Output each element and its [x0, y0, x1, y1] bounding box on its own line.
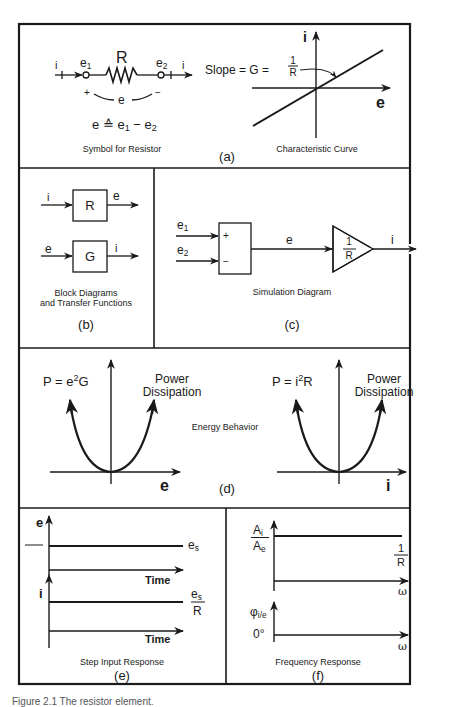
block-caption-1: Block Diagrams — [54, 289, 117, 298]
amp-ratio-bar — [251, 537, 269, 538]
slope-label: Slope = G = — [205, 64, 269, 76]
panel-a-label: (a) — [219, 150, 235, 163]
omega-axis-2: ω — [398, 641, 407, 652]
amp-ratio-num: Ai — [253, 524, 263, 537]
amp-ratio-den: Ae — [253, 540, 266, 553]
frequency-response — [274, 521, 408, 642]
curve-caption: Characteristic Curve — [276, 145, 358, 154]
energy-caption: Energy Behavior — [192, 423, 259, 432]
sum-plus: + — [223, 231, 229, 241]
gain-denominator: R — [345, 251, 352, 261]
omega-axis-1: ω — [398, 586, 407, 597]
sum-minus: − — [223, 257, 229, 267]
frequency-caption: Frequency Response — [275, 658, 361, 667]
sim-output: i — [391, 234, 394, 246]
block2-input: e — [45, 243, 52, 255]
node2-label: e2 — [156, 57, 167, 70]
simulation-caption: Simulation Diagram — [253, 288, 332, 297]
axis-i-label: i — [303, 30, 307, 44]
panel-d-label: (d) — [219, 482, 235, 495]
sim-input1: e1 — [177, 219, 188, 232]
step-axis-i: i — [39, 587, 43, 600]
power-title-i-1: Power — [367, 373, 401, 385]
axis-i-label-d: i — [386, 478, 390, 494]
power-title-e-2: Dissipation — [143, 386, 202, 398]
step-level-den: R — [193, 605, 202, 617]
step-time-axis-2: Time — [145, 634, 170, 645]
minus-sign: − — [155, 88, 161, 98]
axis-e-label: e — [376, 95, 385, 111]
power-eq-i: P = i2R — [272, 374, 313, 388]
current-out-label: i — [182, 60, 184, 71]
panel-f-label: (f) — [312, 669, 324, 682]
step-level-es: es — [188, 539, 199, 552]
resistor-label: R — [116, 50, 128, 66]
current-in-label: i — [55, 60, 57, 71]
panel-c-label: (c) — [284, 318, 299, 331]
block1-box: R — [85, 199, 94, 212]
phase-axis-label: φi/e — [250, 606, 267, 619]
block1-output: e — [113, 190, 120, 202]
figure-frame — [19, 24, 410, 684]
step-axis-e: e — [36, 516, 43, 529]
slope-denominator: R — [289, 68, 296, 78]
phase-zero-label: 0° — [253, 628, 264, 640]
characteristic-curve — [252, 32, 390, 138]
axis-e-label-d: e — [160, 478, 169, 494]
figure-caption: Figure 2.1 The resistor element. — [12, 696, 154, 707]
step-level-num: es — [191, 588, 202, 601]
across-voltage-label: e — [118, 94, 125, 106]
block-caption-2: and Transfer Functions — [40, 299, 132, 308]
node1-label: e1 — [80, 57, 91, 70]
slope-numerator: 1 — [290, 56, 296, 66]
sim-input2: e2 — [177, 244, 188, 257]
block2-output: i — [115, 243, 117, 254]
step-caption: Step Input Response — [80, 658, 164, 667]
panel-e-label: (e) — [114, 669, 130, 682]
symbol-caption: Symbol for Resistor — [83, 145, 162, 154]
power-eq-e: P = e2G — [43, 374, 89, 388]
plus-sign: + — [84, 88, 90, 98]
panel-b-label: (b) — [78, 318, 94, 331]
block2-box: G — [85, 250, 95, 263]
block1-input: i — [47, 192, 49, 203]
power-title-i-2: Dissipation — [355, 386, 414, 398]
gain-numerator: 1 — [346, 237, 352, 247]
simulation-diagram — [176, 223, 417, 274]
freq-level-num: 1 — [398, 543, 404, 554]
freq-level-den: R — [397, 557, 405, 568]
step-time-axis-1: Time — [145, 575, 170, 586]
sim-mid-signal: e — [286, 234, 293, 246]
voltage-definition: e ≙ e1 − e2 — [92, 118, 157, 133]
power-title-e-1: Power — [155, 373, 189, 385]
